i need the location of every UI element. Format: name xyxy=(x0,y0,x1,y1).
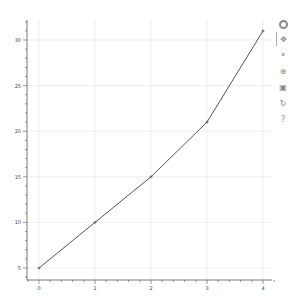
save-tool-icon[interactable]: ▣ xyxy=(276,80,290,94)
x-tick-label: 1 xyxy=(93,285,96,291)
x-tick-label: 4 xyxy=(261,285,264,291)
y-tick-label: 15 xyxy=(15,174,21,180)
help-tool-icon[interactable]: ? xyxy=(276,112,290,126)
box-zoom-tool-icon[interactable]: ⌕ xyxy=(276,48,290,62)
y-tick-label: 30 xyxy=(15,37,21,43)
pan-tool-icon[interactable]: ✥ xyxy=(276,32,291,46)
y-tick-label: 20 xyxy=(15,128,21,134)
x-tick-label: 3 xyxy=(205,285,208,291)
bokeh-logo-icon[interactable] xyxy=(279,20,288,29)
y-tick-label: 10 xyxy=(15,219,21,225)
line-chart: 5101520253001234 xyxy=(0,0,297,305)
x-tick-label: 0 xyxy=(37,285,40,291)
chart-toolbar: ✥ ⌕ ⊕ ▣ ↻ ? xyxy=(275,20,291,128)
y-tick-label: 25 xyxy=(15,83,21,89)
reset-tool-icon[interactable]: ↻ xyxy=(276,96,290,110)
y-tick-label: 5 xyxy=(18,265,21,271)
wheel-zoom-tool-icon[interactable]: ⊕ xyxy=(276,64,290,78)
x-tick-label: 2 xyxy=(149,285,152,291)
